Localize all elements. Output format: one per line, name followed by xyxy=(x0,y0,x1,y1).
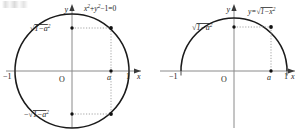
full-circle-panel: x2+y2−1=0 y x O −1 1 a √1−a2 −√1−a2 xyxy=(0,0,154,130)
tick-label-minus-one: −1 xyxy=(3,72,12,81)
upper-intersection-point xyxy=(109,26,113,30)
figure-pair: x2+y2−1=0 y x O −1 1 a √1−a2 −√1−a2 xyxy=(0,0,308,130)
upper-value-label: √1−a2 xyxy=(30,23,51,33)
y-axis-point xyxy=(232,25,235,28)
x-axis-label: x xyxy=(290,72,295,81)
upper-y-axis-point xyxy=(70,26,73,29)
equation-label: x2+y2−1=0 xyxy=(83,3,117,13)
lower-intersection-point xyxy=(109,112,113,116)
upper-value-label: √1−a2 xyxy=(192,22,213,32)
semicircle-svg: y=√1−x2 y x O −1 1 a √1−a2 xyxy=(154,0,308,130)
origin-label: O xyxy=(59,75,65,84)
x-axis-label: x xyxy=(136,72,141,81)
y-axis-label: y xyxy=(226,5,231,14)
point-x-label: a xyxy=(107,73,111,82)
full-circle-svg: x2+y2−1=0 y x O −1 1 a √1−a2 −√1−a2 xyxy=(0,0,154,130)
tick-label-one: 1 xyxy=(284,72,288,81)
equation-label: y=√1−x2 xyxy=(247,6,276,16)
origin-label: O xyxy=(221,75,227,84)
semicircle-panel: y=√1−x2 y x O −1 1 a √1−a2 xyxy=(154,0,308,130)
y-axis-arrow xyxy=(231,4,236,11)
tick-label-minus-one: −1 xyxy=(169,72,178,81)
tick-label-one: 1 xyxy=(126,72,130,81)
curve-point xyxy=(269,25,273,29)
y-axis-arrow xyxy=(69,4,74,11)
point-x-label: a xyxy=(267,73,271,82)
lower-y-axis-point xyxy=(70,112,73,115)
lower-value-label: −√1−a2 xyxy=(24,109,49,119)
y-axis-label: y xyxy=(64,5,69,14)
